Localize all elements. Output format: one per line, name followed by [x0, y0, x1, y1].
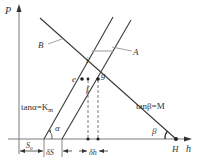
- line-a-label: A: [132, 47, 139, 57]
- dim-delta-s-label: δS: [46, 148, 54, 157]
- h-axis-label: h: [186, 143, 191, 154]
- line-b-slope-label: tanβ=M: [136, 101, 165, 111]
- angle-alpha: α: [49, 123, 60, 139]
- p-axis: P: [4, 4, 22, 154]
- angle-beta: β: [151, 126, 168, 139]
- angle-beta-label: β: [151, 126, 157, 136]
- point-g-label: g: [101, 70, 106, 80]
- dim-delta-h-label: δh: [89, 148, 97, 157]
- h-axis-arrow-icon: [184, 137, 192, 142]
- p-axis-label: P: [4, 5, 11, 16]
- dim-s0-label: S0: [26, 141, 33, 151]
- point-h-label: H: [171, 144, 179, 154]
- line-b-label: B: [38, 40, 44, 50]
- line-a-annotation: A tanα=Km: [21, 47, 139, 113]
- point-g: g: [96, 70, 106, 81]
- projection-lines: [88, 80, 98, 139]
- projection-dot-left: [86, 137, 89, 140]
- dim-s0: S0: [20, 141, 43, 153]
- line-b: B tanβ=M: [38, 18, 176, 139]
- line-a-slope-label: tanα=Km: [21, 102, 53, 113]
- angle-alpha-label: α: [55, 123, 60, 133]
- point-e-label: e: [72, 74, 76, 84]
- line-b-leader: [48, 39, 62, 44]
- diagram-canvas: P h B tanβ=M A tanα=Km α β: [0, 0, 206, 165]
- projection-dot-right: [96, 137, 99, 140]
- dimension-row: S0 δS δh: [20, 139, 108, 157]
- dim-delta-s: δS: [46, 148, 72, 157]
- p-axis-arrow-icon: [17, 4, 22, 12]
- point-h: H: [171, 137, 179, 154]
- dim-delta-h: δh: [79, 148, 108, 157]
